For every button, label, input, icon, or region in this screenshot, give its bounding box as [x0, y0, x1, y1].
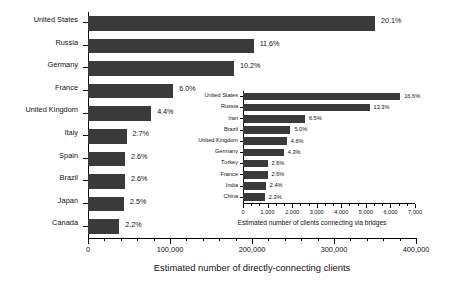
x-axis-minor-tick [259, 204, 260, 206]
category-label: United Kingdom [198, 137, 238, 143]
x-axis-minor-tick [399, 204, 400, 206]
x-axis-major-tick [416, 238, 417, 244]
bar-value-label: 2.6% [131, 152, 147, 161]
x-axis-minor-tick [121, 238, 122, 241]
category-label: Brazil [224, 126, 238, 132]
x-axis-minor-tick [333, 204, 334, 206]
bar-value-label: 2.5% [130, 197, 146, 206]
category-label: China [223, 193, 238, 199]
figure: United States20.1%Russia11.6%Germany10.2… [0, 0, 466, 282]
bar-value-label: 2.3% [269, 194, 282, 200]
x-axis-minor-tick [382, 204, 383, 206]
x-axis-major-tick [252, 238, 253, 244]
x-axis-minor-tick [276, 204, 277, 206]
bar [243, 182, 266, 190]
category-label: United States [34, 15, 78, 24]
main-x-axis-title: Estimated number of directly-connecting … [88, 262, 416, 273]
category-label: Russia [221, 103, 238, 109]
x-axis-tick-label: 100,000 [157, 245, 184, 254]
category-label: Germany [48, 60, 78, 69]
bar-value-label: 10.2% [240, 61, 260, 70]
bar [243, 115, 305, 123]
x-axis-major-tick [317, 204, 318, 208]
bar [88, 174, 125, 189]
bar-value-label: 2.4% [270, 182, 283, 188]
x-axis-minor-tick [285, 238, 286, 241]
bar-value-label: 2.2% [125, 220, 141, 229]
x-axis-tick-label: 5,000 [359, 209, 373, 215]
bar [243, 171, 268, 179]
x-axis-major-tick [243, 204, 244, 208]
bar-row: Germany4.3% [243, 147, 415, 158]
bar-value-label: 13.3% [374, 104, 390, 110]
category-label: Spain [59, 151, 78, 160]
bar [243, 193, 265, 201]
bar-value-label: 2.6% [272, 160, 285, 166]
bar-row: Iran6.5% [243, 113, 415, 124]
x-axis-major-tick [268, 204, 269, 208]
x-axis-minor-tick [284, 204, 285, 206]
x-axis-major-tick [390, 204, 391, 208]
bar-row: United Kingdom4.6% [243, 136, 415, 147]
x-axis-major-tick [292, 204, 293, 208]
inset-bar-chart: United States16.6%Russia13.3%Iran6.5%Bra… [196, 88, 428, 228]
category-label: Germany [215, 148, 238, 154]
x-axis-tick-label: 3,000 [310, 209, 324, 215]
bar-row: Brazil5.0% [243, 125, 415, 136]
x-axis-minor-tick [358, 204, 359, 206]
bar-value-label: 6.0% [179, 84, 195, 93]
bar [88, 84, 173, 99]
bar-value-label: 2.7% [133, 129, 149, 138]
x-axis-major-tick [170, 238, 171, 244]
category-label: Canada [52, 218, 78, 227]
x-axis-minor-tick [268, 238, 269, 241]
category-label: Brazil [60, 173, 78, 182]
bar [88, 61, 234, 76]
bar [88, 219, 119, 234]
bar-value-label: 2.6% [131, 174, 147, 183]
inset-x-tick-labels: 01,0002,0003,0004,0005,0006,0007,000 [243, 209, 415, 218]
x-axis-minor-tick [318, 238, 319, 241]
x-axis-major-tick [341, 204, 342, 208]
x-axis-minor-tick [154, 238, 155, 241]
bar-row: France2.6% [243, 169, 415, 180]
x-axis-major-tick [88, 238, 89, 244]
category-label: Japan [58, 196, 78, 205]
bar-row: Germany10.2% [88, 57, 416, 80]
x-axis-tick-label: 2,000 [285, 209, 299, 215]
category-label: Turkey [221, 159, 238, 165]
x-axis-major-tick [415, 204, 416, 208]
category-label: India [226, 182, 238, 188]
x-axis-minor-tick [349, 204, 350, 206]
bar-value-label: 16.6% [404, 93, 420, 99]
bar-row: United States20.1% [88, 12, 416, 35]
bar-value-label: 4.4% [157, 107, 173, 116]
inset-plot-area: United States16.6%Russia13.3%Iran6.5%Bra… [243, 91, 415, 203]
x-axis-minor-tick [219, 238, 220, 241]
x-axis-minor-tick [325, 204, 326, 206]
bar-row: Russia11.6% [88, 35, 416, 58]
x-axis-minor-tick [374, 204, 375, 206]
bar [243, 137, 287, 145]
main-x-tick-labels: 0100,000200,000300,000400,000 [88, 245, 416, 257]
x-axis-minor-tick [300, 204, 301, 206]
x-axis-tick-label: 0 [241, 209, 244, 215]
x-axis-tick-label: 300,000 [321, 245, 348, 254]
x-axis-tick-label: 400,000 [403, 245, 430, 254]
x-axis-minor-tick [236, 238, 237, 241]
x-axis-major-tick [366, 204, 367, 208]
bar [243, 93, 400, 101]
bar [88, 106, 151, 121]
category-label: Iran [228, 115, 238, 121]
bar [243, 149, 284, 157]
bar [88, 129, 127, 144]
bar-row: Russia13.3% [243, 102, 415, 113]
bar [88, 197, 124, 212]
x-axis-minor-tick [301, 238, 302, 241]
category-label: Italy [64, 128, 78, 137]
bar [243, 160, 268, 168]
x-axis-tick-label: 200,000 [239, 245, 266, 254]
category-label: France [221, 171, 238, 177]
bar-value-label: 6.5% [309, 115, 322, 121]
x-axis-minor-tick [407, 204, 408, 206]
